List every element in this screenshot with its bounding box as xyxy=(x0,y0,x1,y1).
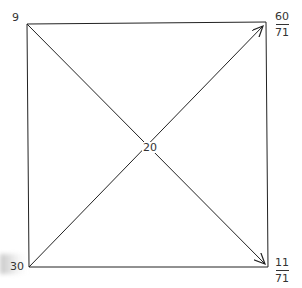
fraction-numerator: 11 xyxy=(275,257,289,268)
fraction-denominator: 71 xyxy=(275,273,289,284)
fraction-denominator: 71 xyxy=(275,27,289,38)
center-label: 20 xyxy=(142,142,158,153)
fraction-numerator: 60 xyxy=(275,11,289,22)
corner-fraction-bottom-right: 11 71 xyxy=(275,257,289,284)
corner-label-top-left: 9 xyxy=(12,12,19,23)
fraction-bar xyxy=(276,24,289,25)
corner-label-bottom-left: 30 xyxy=(10,261,24,272)
fraction-bar xyxy=(276,270,289,271)
corner-fraction-top-right: 60 71 xyxy=(275,11,289,38)
